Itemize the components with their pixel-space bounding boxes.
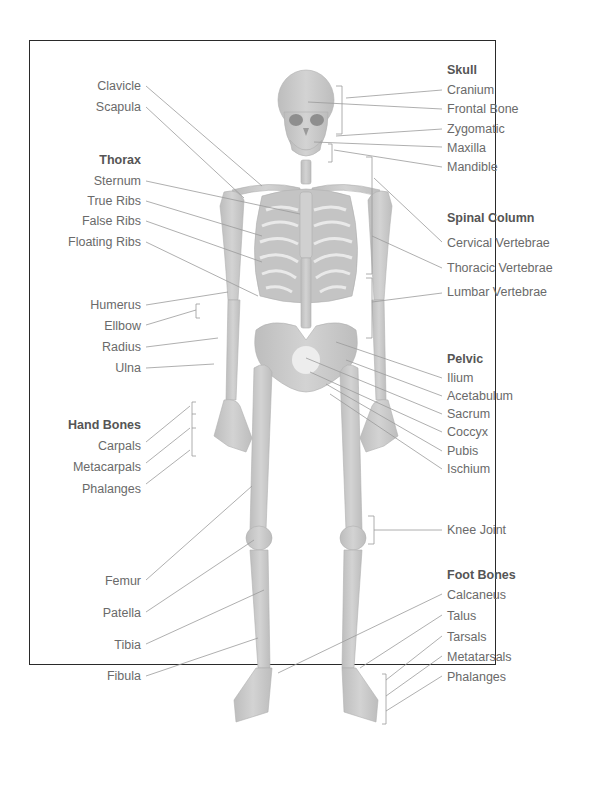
label-fibula: Fibula xyxy=(107,669,141,683)
heading-hand-bones: Hand Bones xyxy=(68,418,141,432)
label-cranium: Cranium xyxy=(447,83,494,97)
label-metacarpals: Metacarpals xyxy=(73,460,141,474)
label-mandible: Mandible xyxy=(447,160,498,174)
patella-right xyxy=(340,526,366,550)
forearm-right xyxy=(372,300,386,400)
label-thoracic-vertebrae: Thoracic Vertebrae xyxy=(447,261,553,275)
label-tibia: Tibia xyxy=(114,638,141,652)
label-elbow: Ellbow xyxy=(104,319,141,333)
label-frontal-bone: Frontal Bone xyxy=(447,102,519,116)
label-calcaneus: Calcaneus xyxy=(447,588,506,602)
label-knee-joint: Knee Joint xyxy=(447,523,506,537)
foot-right xyxy=(342,668,378,722)
femur-right xyxy=(340,365,362,530)
label-ulna: Ulna xyxy=(115,361,141,375)
label-scapula: Scapula xyxy=(96,100,141,114)
tibia-left xyxy=(250,550,270,668)
label-patella: Patella xyxy=(103,606,141,620)
label-cervical-vertebrae: Cervical Vertebrae xyxy=(447,236,550,250)
patella-left xyxy=(246,526,272,550)
heading-thorax: Thorax xyxy=(99,153,141,167)
label-ischium: Ischium xyxy=(447,462,490,476)
label-femur: Femur xyxy=(105,574,141,588)
heading-skull: Skull xyxy=(447,63,477,77)
label-coccyx: Coccyx xyxy=(447,425,488,439)
label-sacrum: Sacrum xyxy=(447,407,490,421)
cervical-vertebrae xyxy=(301,160,311,184)
foot-left xyxy=(234,668,272,722)
label-clavicle: Clavicle xyxy=(97,79,141,93)
label-lumbar-vertebrae: Lumbar Vertebrae xyxy=(447,285,547,299)
label-maxilla: Maxilla xyxy=(447,141,486,155)
label-radius: Radius xyxy=(102,340,141,354)
label-tarsals: Tarsals xyxy=(447,630,487,644)
heading-foot-bones: Foot Bones xyxy=(447,568,516,582)
label-talus: Talus xyxy=(447,609,476,623)
label-acetabulum: Acetabulum xyxy=(447,389,513,403)
label-pubis: Pubis xyxy=(447,444,478,458)
label-sternum: Sternum xyxy=(94,174,141,188)
tibia-right xyxy=(342,550,362,668)
label-carpals: Carpals xyxy=(98,439,141,453)
label-true-ribs: True Ribs xyxy=(87,194,141,208)
skeleton-bones xyxy=(214,70,398,722)
label-phalanges-hand: Phalanges xyxy=(82,482,141,496)
hand-left xyxy=(214,400,252,452)
skeleton-illustration xyxy=(0,0,611,788)
label-floating-ribs: Floating Ribs xyxy=(68,235,141,249)
leader-lines xyxy=(146,86,442,724)
label-ilium: Ilium xyxy=(447,371,473,385)
sternum xyxy=(300,192,312,258)
label-humerus: Humerus xyxy=(90,298,141,312)
label-zygomatic: Zygomatic xyxy=(447,122,505,136)
forearm-left xyxy=(226,300,240,400)
hand-right xyxy=(360,400,398,452)
lumbar-vertebrae xyxy=(301,258,311,328)
label-phalanges-foot: Phalanges xyxy=(447,670,506,684)
label-false-ribs: False Ribs xyxy=(82,214,141,228)
heading-spinal-column: Spinal Column xyxy=(447,211,535,225)
label-metatarsals: Metatarsals xyxy=(447,650,512,664)
heading-pelvic: Pelvic xyxy=(447,352,483,366)
femur-left xyxy=(250,365,272,530)
